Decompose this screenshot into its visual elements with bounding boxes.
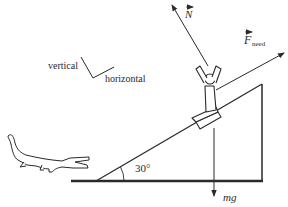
- crocodile-figure: [8, 135, 89, 172]
- incline-diagram: vertical horizontal 30° mg N F need: [0, 0, 288, 207]
- angle-label: 30°: [135, 162, 150, 174]
- incline-plane: 30°: [71, 84, 263, 181]
- applied-label: F: [243, 33, 252, 47]
- angle-arc: [121, 167, 125, 181]
- applied-arrow: [216, 53, 284, 90]
- axis-hint: vertical horizontal: [48, 57, 146, 84]
- person-figure: [192, 66, 221, 129]
- normal-force: N: [172, 5, 208, 66]
- applied-subscript: need: [252, 40, 266, 48]
- applied-force: F need: [216, 32, 284, 90]
- horizontal-label: horizontal: [105, 73, 146, 84]
- weight-force: mg: [214, 128, 237, 203]
- vertical-label: vertical: [48, 60, 78, 71]
- incline-surface: [96, 84, 262, 181]
- weight-label: mg: [223, 191, 237, 203]
- normal-label: N: [184, 8, 193, 20]
